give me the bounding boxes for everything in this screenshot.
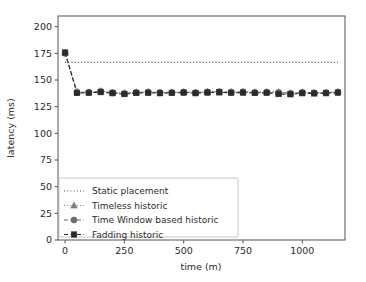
x-axis-ticks: 02505007501000 — [62, 240, 314, 256]
x-tick-label: 1000 — [290, 245, 314, 256]
data-point-marker — [335, 90, 340, 95]
data-point-marker — [157, 91, 162, 96]
data-point-marker — [169, 90, 174, 95]
legend-label: Timeless historic — [91, 201, 167, 211]
data-point-marker — [205, 90, 210, 95]
data-point-marker — [288, 92, 293, 97]
y-tick-label: 200 — [34, 21, 52, 32]
data-point-marker — [181, 90, 186, 95]
data-point-marker — [86, 90, 91, 95]
data-point-marker — [134, 90, 139, 95]
data-point-marker — [71, 217, 77, 223]
y-tick-label: 0 — [46, 234, 52, 245]
data-point-marker — [276, 91, 281, 96]
data-point-marker — [228, 90, 233, 95]
data-point-marker — [300, 91, 305, 96]
data-point-marker — [62, 50, 67, 55]
latency-line-chart: 0255075100125150175200 02505007501000 ti… — [0, 0, 366, 282]
x-axis-title: time (m) — [180, 261, 221, 272]
data-point-marker — [74, 90, 79, 95]
data-point-marker — [71, 232, 76, 237]
x-tick-label: 500 — [175, 245, 193, 256]
y-axis-title: latency (ms) — [5, 98, 16, 158]
data-point-marker — [122, 91, 127, 96]
legend-label: Time Window based historic — [91, 215, 218, 225]
chart-legend: Static placementTimeless historicTime Wi… — [59, 178, 238, 240]
data-point-marker — [311, 91, 316, 96]
legend-label: Static placement — [92, 186, 169, 196]
y-tick-label: 150 — [34, 74, 52, 85]
data-point-marker — [264, 90, 269, 95]
x-tick-label: 0 — [62, 245, 68, 256]
data-point-marker — [323, 91, 328, 96]
y-tick-label: 75 — [40, 154, 52, 165]
y-tick-label: 100 — [34, 128, 52, 139]
y-tick-label: 125 — [34, 101, 52, 112]
data-point-marker — [240, 90, 245, 95]
data-point-marker — [252, 90, 257, 95]
y-tick-label: 50 — [40, 181, 52, 192]
data-point-marker — [110, 91, 115, 96]
legend-label: Fadding historic — [92, 230, 163, 240]
data-point-marker — [98, 89, 103, 94]
data-point-marker — [193, 91, 198, 96]
y-axis-ticks: 0255075100125150175200 — [34, 21, 58, 245]
chart-figure: 0255075100125150175200 02505007501000 ti… — [0, 0, 366, 282]
data-point-marker — [217, 90, 222, 95]
y-tick-label: 25 — [40, 208, 52, 219]
data-point-marker — [145, 90, 150, 95]
x-tick-label: 750 — [234, 245, 252, 256]
x-tick-label: 250 — [115, 245, 133, 256]
y-tick-label: 175 — [34, 48, 52, 59]
